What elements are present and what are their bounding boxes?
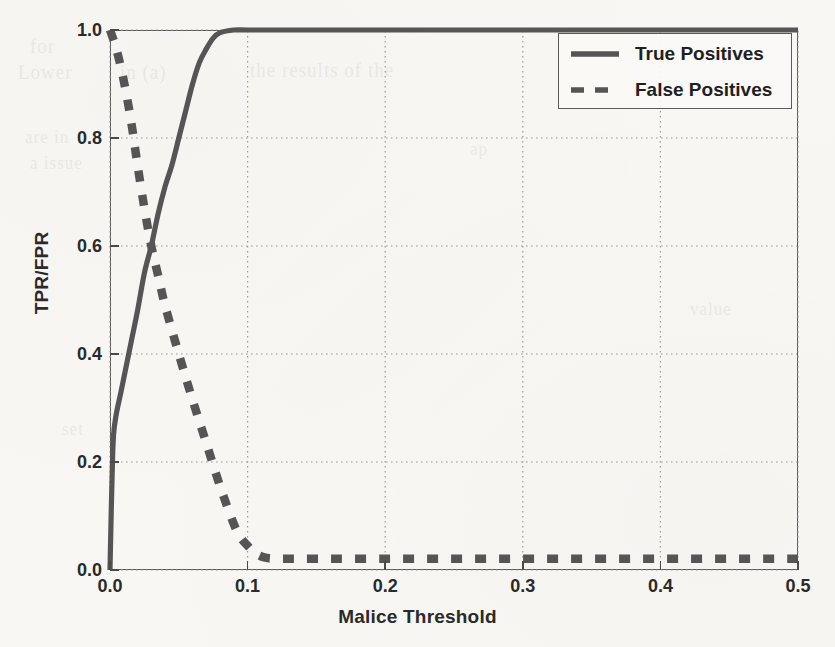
roc-threshold-figure: 0.00.10.20.30.40.50.00.20.40.60.81.0 Mal… xyxy=(0,0,835,647)
chart-legend: True Positives False Positives xyxy=(558,33,792,109)
x-tick-mark xyxy=(384,561,386,570)
legend-label-false-positives: False Positives xyxy=(635,79,772,101)
x-tick-label: 0.2 xyxy=(373,576,398,597)
x-tick-mark xyxy=(660,561,662,570)
y-tick-mark xyxy=(110,137,119,139)
x-tick-label: 0.1 xyxy=(235,576,260,597)
y-tick-label: 0.8 xyxy=(42,128,102,149)
y-tick-mark xyxy=(110,353,119,355)
x-tick-mark xyxy=(247,561,249,570)
y-axis-label-wrapper: TPR/FPR xyxy=(31,173,53,373)
x-axis-label: Malice Threshold xyxy=(0,606,835,628)
x-tick-label: 0.4 xyxy=(648,576,673,597)
y-tick-mark xyxy=(110,461,119,463)
y-tick-mark xyxy=(110,569,119,571)
y-tick-label: 1.0 xyxy=(42,20,102,41)
plot-frame xyxy=(110,30,798,570)
legend-swatch-dashed-icon xyxy=(569,80,621,100)
x-tick-mark xyxy=(797,561,799,570)
x-tick-mark xyxy=(522,561,524,570)
y-tick-label: 0.0 xyxy=(42,560,102,581)
legend-label-true-positives: True Positives xyxy=(635,43,764,65)
y-tick-mark xyxy=(110,245,119,247)
x-tick-label: 0.5 xyxy=(785,576,810,597)
x-tick-label: 0.3 xyxy=(510,576,535,597)
legend-entry-false-positives: False Positives xyxy=(569,74,772,106)
y-tick-label: 0.2 xyxy=(42,452,102,473)
legend-entry-true-positives: True Positives xyxy=(569,38,764,70)
legend-swatch-solid-icon xyxy=(569,44,621,64)
y-axis-label: TPR/FPR xyxy=(31,232,52,315)
y-tick-mark xyxy=(110,29,119,31)
